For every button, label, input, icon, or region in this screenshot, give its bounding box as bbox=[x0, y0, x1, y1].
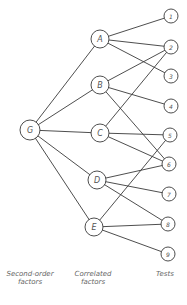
edge-A-2 bbox=[100, 39, 171, 47]
edge-G-B bbox=[30, 85, 100, 130]
node-label: 7 bbox=[167, 191, 171, 198]
node-label: C bbox=[97, 129, 103, 138]
node-8: 8 bbox=[161, 217, 175, 231]
edge-G-A bbox=[30, 39, 100, 130]
caption-second-order-factors: Second-order factors bbox=[2, 270, 58, 286]
node-label: 3 bbox=[169, 73, 173, 80]
node-9: 9 bbox=[161, 247, 175, 261]
node-4: 4 bbox=[164, 99, 178, 113]
edge-B-4 bbox=[100, 85, 171, 106]
edge-C-5 bbox=[100, 133, 170, 135]
node-label: 4 bbox=[169, 103, 173, 110]
factor-hierarchy-diagram: GABCDE123456789 bbox=[0, 0, 187, 305]
edge-A-1 bbox=[100, 16, 171, 39]
edge-E-8 bbox=[94, 224, 168, 227]
node-C: C bbox=[91, 124, 109, 142]
node-G: G bbox=[20, 120, 40, 140]
edge-D-6 bbox=[97, 164, 169, 180]
node-label: 1 bbox=[169, 13, 173, 20]
node-label: 8 bbox=[166, 221, 170, 228]
node-label: 2 bbox=[169, 44, 173, 51]
caption-tests: Tests bbox=[150, 270, 180, 278]
edge-C-2 bbox=[100, 47, 171, 133]
node-5: 5 bbox=[163, 128, 177, 142]
node-label: A bbox=[96, 35, 102, 44]
node-A: A bbox=[91, 30, 109, 48]
node-1: 1 bbox=[164, 9, 178, 23]
edge-B-6 bbox=[100, 85, 169, 164]
edge-E-9 bbox=[94, 227, 168, 254]
node-label: D bbox=[94, 176, 100, 185]
node-3: 3 bbox=[164, 69, 178, 83]
node-E: E bbox=[85, 218, 103, 236]
node-label: 5 bbox=[168, 132, 172, 139]
edge-G-D bbox=[30, 130, 97, 180]
caption-correlated-factors: Correlated factors bbox=[68, 270, 118, 286]
edge-G-E bbox=[30, 130, 94, 227]
edge-A-3 bbox=[100, 39, 171, 76]
node-B: B bbox=[91, 76, 109, 94]
node-label: G bbox=[27, 126, 33, 135]
edge-G-C bbox=[30, 130, 100, 133]
node-2: 2 bbox=[164, 40, 178, 54]
node-label: 6 bbox=[167, 161, 171, 168]
node-D: D bbox=[88, 171, 106, 189]
node-6: 6 bbox=[162, 157, 176, 171]
node-label: 9 bbox=[166, 251, 170, 258]
node-label: B bbox=[97, 81, 103, 90]
node-7: 7 bbox=[162, 187, 176, 201]
edge-B-2 bbox=[100, 47, 171, 85]
